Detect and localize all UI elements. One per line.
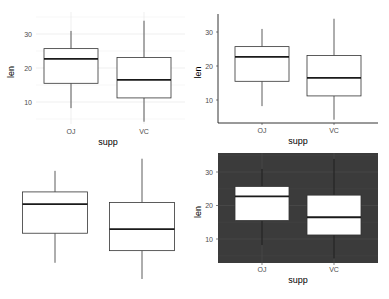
box-iqr bbox=[235, 47, 289, 82]
y-tick-label: 30 bbox=[205, 169, 213, 176]
boxplot-vc bbox=[110, 159, 175, 279]
x-axis-title: supp bbox=[288, 275, 308, 285]
box-iqr bbox=[117, 57, 171, 97]
y-tick-label: 30 bbox=[24, 31, 32, 38]
box-iqr bbox=[307, 195, 361, 235]
x-axis-title: supp bbox=[288, 136, 308, 146]
box-iqr bbox=[307, 55, 361, 95]
x-tick-label: OJ bbox=[258, 266, 267, 273]
boxplot-oj bbox=[23, 171, 88, 263]
boxplot-vc bbox=[117, 21, 171, 122]
x-tick-label: VC bbox=[329, 127, 339, 134]
x-tick-label: VC bbox=[139, 128, 149, 135]
boxplot-vc bbox=[307, 19, 361, 120]
chart-panel-void bbox=[23, 159, 175, 279]
y-tick-label: 20 bbox=[205, 202, 213, 209]
box-iqr bbox=[23, 192, 88, 233]
x-axis-title: supp bbox=[98, 137, 118, 147]
x-tick-label: VC bbox=[329, 266, 339, 273]
y-tick-label: 30 bbox=[205, 29, 213, 36]
chart-panel-dark: 102030OJVCsupplen bbox=[193, 153, 378, 285]
y-tick-label: 10 bbox=[205, 236, 213, 243]
x-tick-label: OJ bbox=[67, 128, 76, 135]
y-tick-label: 10 bbox=[24, 99, 32, 106]
y-axis-title: len bbox=[6, 66, 16, 78]
box-iqr bbox=[110, 202, 175, 250]
x-tick-label: OJ bbox=[258, 127, 267, 134]
y-axis-title: len bbox=[193, 206, 203, 218]
chart-grid: 102030OJVCsupplen102030OJVCsupplen102030… bbox=[0, 0, 389, 299]
y-tick-label: 10 bbox=[205, 97, 213, 104]
chart-panel-classic: 102030OJVCsupplen bbox=[193, 14, 378, 146]
chart-panel-minimal: 102030OJVCsupplen bbox=[6, 12, 185, 147]
box-iqr bbox=[44, 49, 98, 84]
y-tick-label: 20 bbox=[24, 65, 32, 72]
y-axis-title: len bbox=[193, 66, 203, 78]
boxplot-oj bbox=[235, 29, 289, 106]
y-tick-label: 20 bbox=[205, 63, 213, 70]
boxplot-oj bbox=[44, 31, 98, 108]
box-iqr bbox=[235, 186, 289, 220]
